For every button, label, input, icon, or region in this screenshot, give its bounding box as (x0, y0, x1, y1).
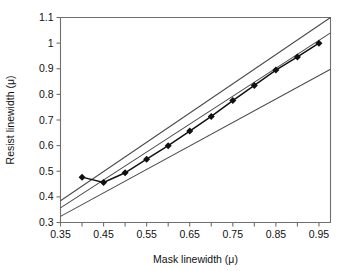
chart-figure: 0.30.40.50.60.70.80.911.10.350.450.550.6… (0, 0, 346, 271)
x-axis-tick-label: 0.55 (136, 228, 157, 240)
x-axis-tick-label: 0.45 (93, 228, 114, 240)
lower-reference-line (61, 69, 331, 216)
y-axis-tick-label: 0.7 (39, 114, 54, 126)
x-axis-tick-label: 0.95 (309, 228, 330, 240)
y-axis-tick-label: 1 (48, 37, 54, 49)
resist-vs-mask-linewidth-chart: 0.30.40.50.60.70.80.911.10.350.450.550.6… (0, 0, 346, 271)
data-point-marker (79, 174, 86, 181)
y-axis-title: Resist linewidth (μ) (4, 76, 16, 165)
x-axis-tick-label: 0.65 (180, 228, 201, 240)
y-axis-tick-label: 0.6 (39, 139, 54, 151)
y-axis-tick-label: 0.9 (39, 62, 54, 74)
x-axis-tick-label: 0.75 (223, 228, 244, 240)
x-axis-title: Mask linewidth (μ) (153, 253, 238, 265)
y-axis-tick-label: 0.5 (39, 165, 54, 177)
data-point-marker (143, 156, 150, 163)
y-axis-tick-label: 0.8 (39, 88, 54, 100)
data-point-marker (122, 169, 129, 176)
upper-reference-line (61, 18, 331, 201)
y-axis-tick-label: 0.4 (39, 190, 54, 202)
data-point-marker (100, 179, 107, 186)
x-axis-tick-label: 0.85 (266, 228, 287, 240)
x-axis-tick-label: 0.35 (50, 228, 71, 240)
y-axis-tick-label: 0.3 (39, 216, 54, 228)
y-axis-tick-label: 1.1 (39, 11, 54, 23)
